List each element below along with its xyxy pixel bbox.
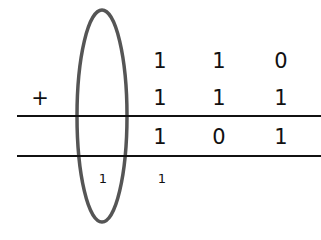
addend-1-digit: 0: [274, 51, 287, 72]
addend-2-digit: 1: [274, 88, 287, 109]
carry-digit: 1: [99, 172, 107, 185]
addend-2-digit: 1: [212, 88, 225, 109]
carry-digit: 1: [158, 172, 166, 185]
sum-rule-bottom: [17, 155, 321, 157]
addend-1-digit: 1: [153, 51, 166, 72]
sum-rule-top: [17, 115, 321, 117]
sum-digit: 1: [153, 127, 166, 148]
addend-1-digit: 1: [212, 51, 225, 72]
sum-digit: 1: [274, 127, 287, 148]
plus-operator: +: [31, 88, 49, 109]
addend-2-digit: 1: [153, 88, 166, 109]
sum-digit: 0: [212, 127, 225, 148]
